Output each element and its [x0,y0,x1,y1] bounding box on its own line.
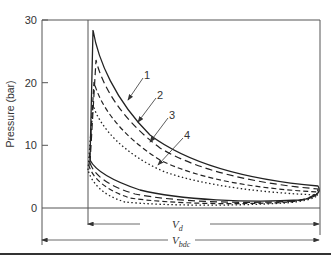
curve-label-3: 3 [169,109,175,121]
curve-label-1: 1 [144,69,150,81]
y-axis-ticks [42,20,48,145]
y-tick-30: 30 [25,14,37,26]
leader-3 [150,118,168,142]
vbdc-label: Vbdc [172,234,191,249]
y-tick-0: 0 [31,202,37,214]
curve-1 [90,30,319,201]
vd-label: Vd [172,218,184,233]
curve-label-4: 4 [184,129,190,141]
pv-diagram: 30 20 10 0 Pressure (bar) 1 2 3 4 Vd Vbd… [0,0,331,257]
leader-4 [158,138,183,165]
y-axis-label: Pressure (bar) [4,80,16,147]
leader-1 [128,78,143,100]
y-tick-10: 10 [25,139,37,151]
curve-2 [90,60,318,202]
y-tick-20: 20 [25,77,37,89]
curve-label-2: 2 [157,89,163,101]
curve-4 [88,105,318,205]
leader-2 [138,98,156,122]
plot-frame [42,20,320,245]
